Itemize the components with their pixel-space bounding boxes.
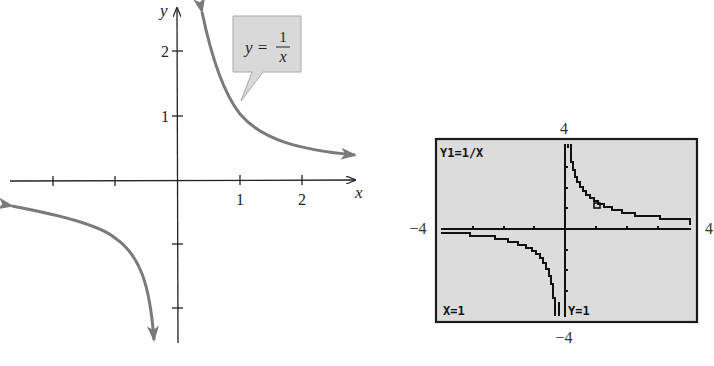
callout-denominator: x bbox=[278, 48, 286, 65]
window-ymax-label: 4 bbox=[560, 120, 568, 137]
calc-x-value: X=1 bbox=[443, 304, 465, 318]
y-tick-label-2: 2 bbox=[161, 43, 169, 60]
figure-canvas: 1 2 1 2 x y y = 1 x bbox=[0, 0, 714, 366]
window-xmax-label: 4 bbox=[705, 220, 713, 237]
y-axis-label: y bbox=[158, 1, 168, 20]
callout-lhs: y = bbox=[243, 38, 268, 57]
y-tick-label-1: 1 bbox=[161, 108, 169, 125]
window-xmin-label: −4 bbox=[409, 220, 426, 237]
left-graph: 1 2 1 2 x y y = 1 x bbox=[10, 1, 363, 343]
x-tick-label-1: 1 bbox=[236, 191, 244, 208]
window-ymin-label: −4 bbox=[555, 329, 572, 346]
x-axis-label: x bbox=[354, 183, 363, 202]
y-axis bbox=[177, 8, 178, 343]
callout-numerator: 1 bbox=[279, 29, 287, 45]
calculator-graph: Y1=1/X X=1 Y=1 4 −4 −4 4 bbox=[409, 120, 713, 346]
curve-negative-branch bbox=[12, 206, 154, 340]
x-tick-label-2: 2 bbox=[298, 191, 306, 208]
x-axis bbox=[10, 180, 355, 181]
calc-y-value: Y=1 bbox=[568, 304, 590, 318]
calc-function-label: Y1=1/X bbox=[440, 146, 484, 160]
function-callout: y = 1 x bbox=[233, 16, 301, 101]
